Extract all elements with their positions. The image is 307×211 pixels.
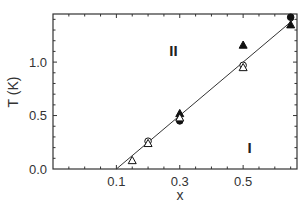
region-label: II: [169, 42, 177, 59]
plot-frame: [53, 14, 297, 169]
region-labels: III: [169, 42, 251, 155]
filled-circle-marker: [287, 14, 294, 21]
filled-triangle-marker: [239, 41, 247, 48]
x-axis-label: x: [177, 187, 184, 203]
fit-line: [116, 19, 293, 169]
y-axis-tick-labels: 0.00.51.0: [29, 55, 47, 177]
x-tick-label: 0.5: [234, 174, 252, 189]
y-axis-ticks: [53, 19, 297, 158]
x-axis-ticks: [69, 14, 291, 169]
phase-diagram-chart: 0.10.30.5 0.00.51.0 III x T (K): [0, 0, 307, 211]
x-tick-label: 0.1: [107, 174, 125, 189]
y-tick-label: 0.5: [29, 108, 47, 123]
region-label: I: [247, 139, 251, 156]
y-tick-label: 1.0: [29, 55, 47, 70]
y-tick-label: 0.0: [29, 162, 47, 177]
y-axis-label: T (K): [5, 77, 21, 108]
